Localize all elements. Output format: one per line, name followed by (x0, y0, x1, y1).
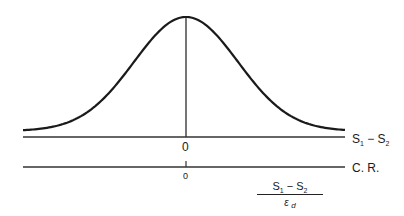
label-s1-sub: 1 (360, 140, 364, 147)
fraction-numerator: S1 − S2 (257, 180, 323, 195)
axis-difference-label: S1 − S2 (352, 133, 390, 147)
label-s2-sub: 2 (386, 140, 390, 147)
label-s1: S (352, 132, 360, 146)
axis-difference-zero-label: 0 (182, 141, 189, 153)
diagram-canvas (0, 0, 404, 216)
fraction-denominator: ε d (257, 195, 323, 208)
label-minus-s2: − S (364, 132, 386, 146)
normal-curve (23, 17, 345, 130)
critical-ratio-fraction: S1 − S2 ε d (257, 180, 323, 208)
axis-cr-zero-label: 0 (183, 170, 188, 182)
axis-critical-ratio-label: C. R. (352, 162, 379, 174)
